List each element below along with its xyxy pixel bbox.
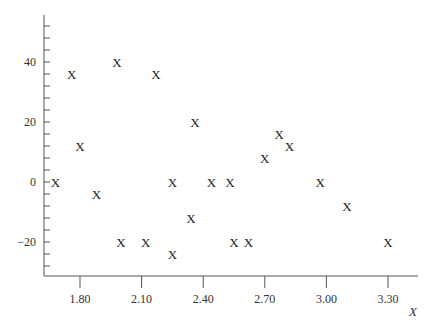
data-point-marker: X — [141, 235, 151, 250]
y-tick-label: 40 — [24, 55, 36, 69]
data-point-marker: X — [186, 211, 196, 226]
y-tick-label: −20 — [17, 235, 36, 249]
x-tick-label: 2.40 — [193, 292, 214, 306]
data-point-marker: X — [316, 175, 326, 190]
data-point-marker: X — [244, 235, 254, 250]
x-axis: 1.802.102.402.703.003.30 — [44, 276, 418, 306]
y-axis: −2002040 — [17, 15, 50, 276]
y-tick-label: 0 — [30, 175, 36, 189]
data-point-marker: X — [75, 139, 85, 154]
data-point-marker: X — [168, 175, 178, 190]
x-axis-label: X — [408, 304, 418, 319]
data-point-marker: X — [225, 175, 235, 190]
data-point-marker: X — [383, 235, 393, 250]
x-tick-label: 2.70 — [254, 292, 275, 306]
data-point-marker: X — [274, 127, 284, 142]
x-tick-label: 2.10 — [131, 292, 152, 306]
x-tick-label: 3.30 — [378, 292, 399, 306]
data-point-marker: X — [285, 139, 295, 154]
data-point-marker: X — [151, 67, 161, 82]
data-point-marker: X — [190, 115, 200, 130]
data-point-marker: X — [112, 55, 122, 70]
data-points: XXXXXXXXXXXXXXXXXXXXXX — [51, 55, 394, 262]
data-point-marker: X — [92, 187, 102, 202]
data-point-marker: X — [168, 247, 178, 262]
scatter-chart: −2002040 1.802.102.402.703.003.30 XXXXXX… — [0, 0, 432, 331]
data-point-marker: X — [229, 235, 239, 250]
data-point-marker: X — [116, 235, 126, 250]
y-tick-label: 20 — [24, 115, 36, 129]
data-point-marker: X — [67, 67, 77, 82]
data-point-marker: X — [51, 175, 61, 190]
x-tick-label: 3.00 — [316, 292, 337, 306]
x-tick-label: 1.80 — [70, 292, 91, 306]
data-point-marker: X — [207, 175, 217, 190]
data-point-marker: X — [342, 199, 352, 214]
data-point-marker: X — [260, 151, 270, 166]
